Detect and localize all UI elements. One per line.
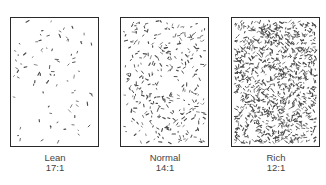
panel-rich: Rich 12:1 (231, 17, 320, 147)
panel-ratio-normal: 14:1 (120, 163, 210, 173)
panel-ratio-lean: 17:1 (10, 163, 100, 173)
mixture-box-rich (231, 17, 320, 147)
mixture-box-normal (120, 17, 209, 147)
panel-lean: Lean 17:1 (10, 17, 99, 147)
speckle-field-normal (121, 18, 208, 146)
panel-normal: Normal 14:1 (120, 17, 209, 147)
speckle-field-rich (232, 18, 319, 146)
mixture-box-lean (10, 17, 99, 147)
speckle-field-lean (11, 18, 98, 146)
panel-ratio-rich: 12:1 (231, 163, 321, 173)
